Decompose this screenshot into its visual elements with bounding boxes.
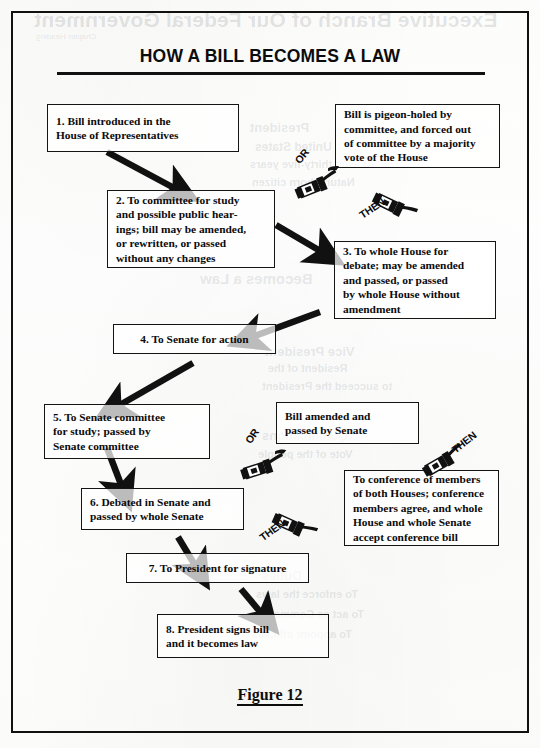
pigeonhole-line-3: vote of the House bbox=[344, 150, 476, 164]
figure-caption: Figure 12 bbox=[0, 686, 540, 704]
box-6-line-0: 6. Debated in Senate and bbox=[90, 495, 211, 509]
pigeonhole-line-1: committee, and forced out bbox=[344, 122, 476, 136]
box-4-line-0: 4. To Senate for action bbox=[140, 332, 248, 346]
box-5-line-0: 5. To Senate committee bbox=[53, 410, 165, 424]
title-divider bbox=[57, 72, 485, 75]
box-3-line-0: 3. To whole House for bbox=[343, 244, 464, 258]
pigeonhole-line-2: of committee by a majority bbox=[344, 136, 476, 150]
box-8-line-0: 8. President signs bill bbox=[166, 622, 269, 636]
figure-page: Executive Branch of Our Federal Governme… bbox=[0, 0, 540, 748]
amended-line-0: Bill amended and bbox=[285, 409, 370, 423]
step-8-president-signs[interactable]: 8. President signs bill and it becomes l… bbox=[157, 614, 329, 658]
box-2-line-4: without any changes bbox=[116, 251, 246, 265]
box-2-line-2: ings; bill may be amended, bbox=[116, 222, 246, 236]
step-2-to-committee[interactable]: 2. To committee for study and possible p… bbox=[107, 190, 275, 268]
box-2-line-3: or rewritten, or passed bbox=[116, 236, 246, 250]
step-4-to-senate[interactable]: 4. To Senate for action bbox=[113, 324, 276, 354]
bill-amended-by-senate[interactable]: Bill amended and passed by Senate bbox=[276, 402, 419, 444]
box-7-line-0: 7. To President for signature bbox=[149, 561, 287, 575]
conference-line-2: members agree, and whole bbox=[353, 501, 484, 515]
box-8-line-1: and it becomes law bbox=[166, 636, 269, 650]
step-6-debated-in-senate[interactable]: 6. Debated in Senate and passed by whole… bbox=[81, 488, 244, 530]
to-conference-of-members[interactable]: To conference of members of both Houses;… bbox=[344, 470, 499, 546]
box-2-line-0: 2. To committee for study bbox=[116, 193, 246, 207]
box-1-line-1: House of Representatives bbox=[56, 128, 179, 142]
step-3-to-whole-house[interactable]: 3. To whole House for debate; may be ame… bbox=[334, 241, 496, 319]
box-5-line-1: for study; passed by bbox=[53, 424, 165, 438]
amended-line-1: passed by Senate bbox=[285, 423, 370, 437]
page-title: HOW A BILL BECOMES A LAW bbox=[0, 46, 540, 67]
box-5-line-2: Senate committee bbox=[53, 439, 165, 453]
box-3-line-2: and passed, or passed bbox=[343, 273, 464, 287]
step-1-bill-introduced[interactable]: 1. Bill introduced in the House of Repre… bbox=[47, 104, 239, 152]
box-3-line-1: debate; may be amended bbox=[343, 258, 464, 272]
box-3-line-3: by whole House without bbox=[343, 287, 464, 301]
box-3-line-4: amendment bbox=[343, 302, 464, 316]
conference-line-1: of both Houses; conference bbox=[353, 486, 484, 500]
bill-pigeon-holed[interactable]: Bill is pigeon-holed by committee, and f… bbox=[335, 104, 500, 168]
box-6-line-1: passed by whole Senate bbox=[90, 509, 211, 523]
conference-line-4: accept conference bill bbox=[353, 530, 484, 544]
box-2-line-1: and possible public hear- bbox=[116, 207, 246, 221]
pigeonhole-line-0: Bill is pigeon-holed by bbox=[344, 107, 476, 121]
step-7-to-president[interactable]: 7. To President for signature bbox=[126, 553, 309, 583]
conference-line-0: To conference of members bbox=[353, 472, 484, 486]
step-5-senate-committee[interactable]: 5. To Senate committee for study; passed… bbox=[44, 404, 210, 459]
figure-caption-text: Figure 12 bbox=[237, 686, 302, 706]
box-1-line-0: 1. Bill introduced in the bbox=[56, 114, 179, 128]
conference-line-3: House and whole Senate bbox=[353, 515, 484, 529]
